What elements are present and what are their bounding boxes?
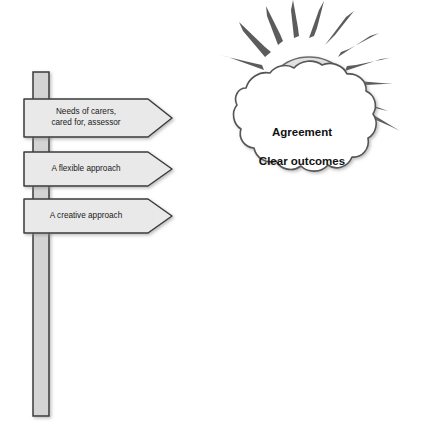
sign-flexible-group[interactable]	[24, 152, 172, 186]
cloud-shape	[234, 61, 377, 171]
sun-ray-7	[345, 58, 390, 71]
diagram-canvas: Needs of carers, cared for, assessor A f…	[0, 0, 422, 443]
sun-ray-6	[338, 33, 379, 57]
sun-ray-10	[219, 55, 264, 70]
sign-flexible-shape[interactable]	[24, 152, 172, 186]
sun-ray-1	[239, 22, 271, 57]
sun-ray-5	[325, 11, 354, 45]
sign-needs-group[interactable]	[24, 99, 172, 137]
sign-creative-shape[interactable]	[24, 199, 172, 233]
sign-needs-shape[interactable]	[24, 99, 172, 137]
sun-ray-3	[291, 0, 299, 38]
sun-ray-2	[266, 6, 283, 45]
sun-ray-4	[309, 1, 324, 38]
diagram-svg	[0, 0, 422, 443]
sign-creative-group[interactable]	[24, 199, 172, 233]
cloud-group	[234, 61, 377, 171]
